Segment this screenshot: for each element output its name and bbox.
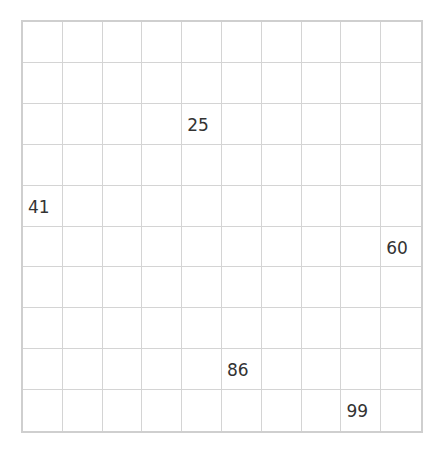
grid-cell <box>341 186 381 227</box>
grid-cell <box>222 22 262 63</box>
grid-cell <box>302 186 342 227</box>
grid-cell <box>302 104 342 145</box>
grid-cell <box>302 227 342 268</box>
grid-cell <box>63 63 103 104</box>
grid-cell: 60 <box>381 227 421 268</box>
grid-cell <box>142 63 182 104</box>
grid-cell: 99 <box>341 390 381 431</box>
grid-cell <box>142 349 182 390</box>
grid-cell <box>341 104 381 145</box>
grid-cell <box>302 267 342 308</box>
grid-cell <box>63 349 103 390</box>
grid-cell <box>142 104 182 145</box>
grid-cell <box>222 227 262 268</box>
grid-cell <box>381 267 421 308</box>
grid-cell <box>142 227 182 268</box>
grid-cell <box>182 267 222 308</box>
grid-cell <box>142 145 182 186</box>
grid-cell <box>23 308 63 349</box>
grid-cell <box>182 145 222 186</box>
grid-cell <box>63 308 103 349</box>
grid-cell <box>381 186 421 227</box>
grid-cell <box>381 22 421 63</box>
grid-cell <box>63 227 103 268</box>
cell-number: 86 <box>227 360 249 380</box>
grid-cell <box>302 349 342 390</box>
grid-cell <box>341 63 381 104</box>
cell-number: 25 <box>187 115 209 135</box>
grid-cell <box>222 104 262 145</box>
hundred-chart-grid: 2541608699 <box>21 20 423 433</box>
cell-number: 41 <box>28 197 50 217</box>
grid-cell <box>103 104 143 145</box>
grid-cell <box>302 22 342 63</box>
grid-cell <box>341 349 381 390</box>
grid-cell <box>302 145 342 186</box>
grid-cell <box>103 227 143 268</box>
grid-cell <box>262 390 302 431</box>
grid-cell <box>103 390 143 431</box>
grid-cell <box>222 63 262 104</box>
grid-cell <box>381 63 421 104</box>
grid-cell <box>182 63 222 104</box>
grid-cell <box>222 390 262 431</box>
cell-number: 99 <box>346 401 368 421</box>
grid-cell <box>341 227 381 268</box>
grid-cell <box>262 22 302 63</box>
grid-cell <box>142 22 182 63</box>
grid-cell <box>182 227 222 268</box>
grid-cell: 86 <box>222 349 262 390</box>
grid-cell <box>23 227 63 268</box>
grid-cell <box>23 104 63 145</box>
grid-cell <box>302 63 342 104</box>
grid-cell <box>341 145 381 186</box>
grid-cell <box>182 308 222 349</box>
grid-cell <box>103 267 143 308</box>
grid-cell <box>103 145 143 186</box>
grid-cell <box>63 390 103 431</box>
grid-cell <box>341 267 381 308</box>
grid-cell <box>262 63 302 104</box>
grid-cell <box>103 186 143 227</box>
grid-cell <box>182 22 222 63</box>
grid-cell <box>381 145 421 186</box>
grid-cell <box>142 308 182 349</box>
grid-cell <box>302 390 342 431</box>
grid-cell <box>63 22 103 63</box>
grid-cell <box>341 22 381 63</box>
grid-cell <box>381 349 421 390</box>
grid-cell <box>23 22 63 63</box>
grid-cell <box>23 349 63 390</box>
grid-cell <box>222 186 262 227</box>
grid-cell <box>262 145 302 186</box>
grid-cell <box>222 145 262 186</box>
grid-cell: 25 <box>182 104 222 145</box>
grid-cell <box>63 104 103 145</box>
grid-cell <box>222 308 262 349</box>
grid-cell <box>103 308 143 349</box>
grid-cell <box>262 104 302 145</box>
grid-cell <box>381 104 421 145</box>
grid-cell <box>381 308 421 349</box>
grid-cell <box>222 267 262 308</box>
grid-cell <box>142 186 182 227</box>
cell-number: 60 <box>386 238 408 258</box>
grid-cell <box>142 390 182 431</box>
grid-cell <box>302 308 342 349</box>
grid-cell <box>103 63 143 104</box>
grid-cell <box>63 267 103 308</box>
grid-cell: 41 <box>23 186 63 227</box>
grid-cell <box>63 186 103 227</box>
grid-cell <box>23 267 63 308</box>
grid-cell <box>262 227 302 268</box>
grid-cell <box>103 349 143 390</box>
grid-cell <box>103 22 143 63</box>
grid-cell <box>262 349 302 390</box>
grid-cell <box>142 267 182 308</box>
grid-cell <box>63 145 103 186</box>
grid-cell <box>182 349 222 390</box>
grid-cell <box>182 390 222 431</box>
grid-cell <box>341 308 381 349</box>
grid-cell <box>23 63 63 104</box>
grid-cell <box>23 145 63 186</box>
